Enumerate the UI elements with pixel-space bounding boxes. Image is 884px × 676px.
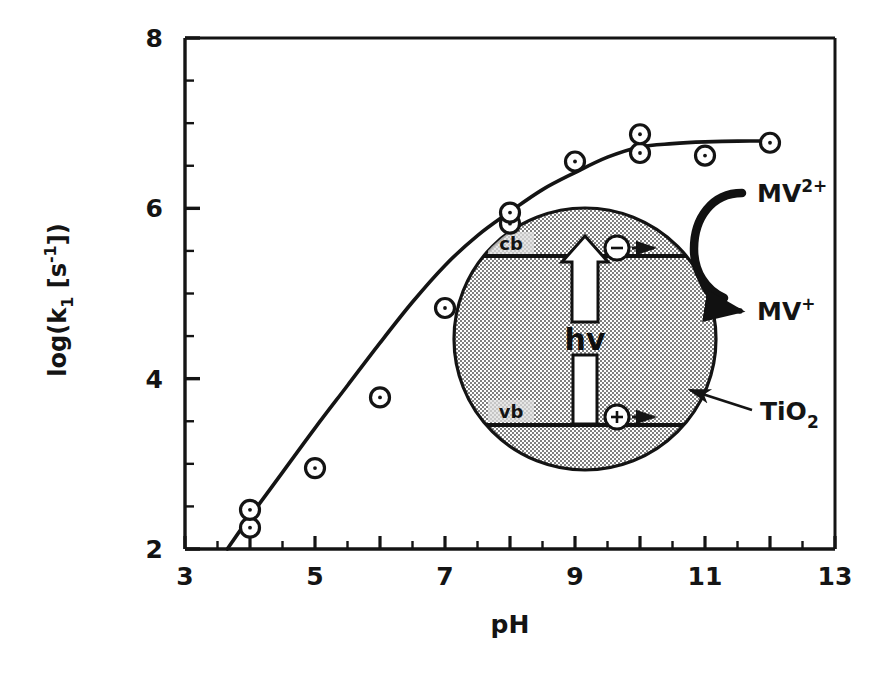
y-axis-tick-labels: 2468 xyxy=(146,24,163,564)
x-axis-title: pH xyxy=(491,610,530,639)
x-tick-label: 3 xyxy=(176,562,193,591)
x-tick-label: 5 xyxy=(306,562,323,591)
data-point xyxy=(761,133,780,152)
data-point xyxy=(501,203,520,222)
figure-container: 35791113 2468 pH log(k1 [s-1]) cb vb xyxy=(0,0,884,676)
tio2-label: TiO2 xyxy=(760,397,819,432)
data-point xyxy=(241,500,260,519)
data-point xyxy=(631,143,650,162)
data-point xyxy=(696,146,715,165)
mvplus-label: MV+ xyxy=(757,294,815,326)
x-axis-tick-labels: 35791113 xyxy=(176,562,852,591)
y-tick-label: 8 xyxy=(146,24,163,53)
photon-arrow-stem xyxy=(573,355,597,424)
y-tick-label: 4 xyxy=(146,365,163,394)
x-tick-label: 11 xyxy=(688,562,723,591)
valence-band-label: vb xyxy=(499,401,524,422)
mv2plus-label: MV2+ xyxy=(757,176,827,208)
hole-symbol xyxy=(605,405,629,429)
x-tick-label: 7 xyxy=(436,562,453,591)
electron-symbol xyxy=(605,236,629,260)
y-tick-label: 2 xyxy=(146,535,163,564)
photon-label: hv xyxy=(565,322,606,357)
y-tick-label: 6 xyxy=(146,194,163,223)
data-point xyxy=(371,388,390,407)
x-tick-label: 13 xyxy=(818,562,853,591)
data-point xyxy=(241,518,260,537)
x-axis-ticks xyxy=(185,536,835,549)
conduction-band-label: cb xyxy=(499,233,523,254)
data-point xyxy=(436,298,455,317)
x-tick-label: 9 xyxy=(566,562,583,591)
y-axis-ticks xyxy=(185,38,200,549)
data-point xyxy=(566,152,585,171)
svg-text:log(k1 [s-1]): log(k1 [s-1]) xyxy=(41,223,77,376)
y-axis-title: log(k1 [s-1]) xyxy=(41,223,77,376)
data-point xyxy=(306,459,325,478)
data-point xyxy=(631,125,650,144)
ph-rate-scatter-chart: 35791113 2468 pH log(k1 [s-1]) cb vb xyxy=(0,0,884,676)
